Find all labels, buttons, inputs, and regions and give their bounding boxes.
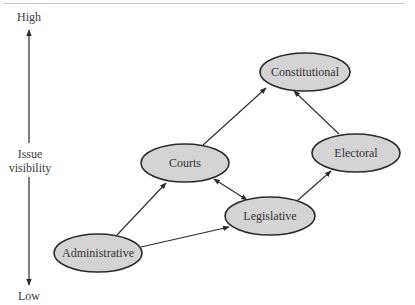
axis-high-label: High <box>9 10 49 25</box>
edge-administrative-courts <box>117 183 166 235</box>
node-label: Administrative <box>62 246 134 260</box>
edge-courts-constitutional <box>203 88 266 145</box>
node-legislative: Legislative <box>225 197 315 235</box>
axis-title-line1: Issue <box>2 147 58 161</box>
axis-low-label: Low <box>9 289 49 304</box>
node-label: Legislative <box>243 209 296 223</box>
issue-visibility-diagram: Constitutional Courts Electoral Legislat… <box>0 0 415 305</box>
edge-legislative-electoral <box>297 171 331 201</box>
edge-courts-legislative <box>214 179 247 200</box>
node-constitutional: Constitutional <box>260 53 350 91</box>
edge-administrative-legislative <box>141 227 229 247</box>
axis-title: Issue visibility <box>2 147 58 175</box>
node-label: Constitutional <box>271 65 340 79</box>
node-courts: Courts <box>141 144 229 182</box>
node-label: Electoral <box>334 146 378 160</box>
node-electoral: Electoral <box>312 134 400 172</box>
node-administrative: Administrative <box>54 234 142 272</box>
node-label: Courts <box>169 156 201 170</box>
edge-electoral-constitutional <box>294 91 339 134</box>
axis-title-line2: visibility <box>2 161 58 175</box>
